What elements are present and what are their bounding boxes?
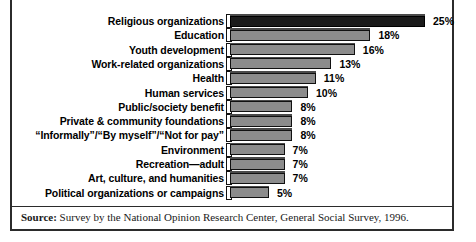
source-note: Source: Survey by the National Opinion R… xyxy=(21,211,441,223)
bar xyxy=(226,100,294,114)
bar xyxy=(226,57,333,71)
bar-value-label: 10% xyxy=(316,86,337,100)
bar xyxy=(226,143,287,157)
bar-value-label: 8% xyxy=(300,114,315,128)
bar-value-label: 13% xyxy=(339,57,360,71)
bar xyxy=(226,171,287,185)
bar-value-label: 8% xyxy=(300,128,315,142)
bar-row: Youth development16% xyxy=(12,43,452,57)
bar-value-label: 8% xyxy=(300,100,315,114)
bar-fill xyxy=(230,159,285,170)
chart-figure: Religious organizations25%Education18%Yo… xyxy=(10,0,454,231)
bar-fill xyxy=(230,44,355,55)
bar xyxy=(226,157,287,171)
bar-row: Health11% xyxy=(12,71,452,85)
bar-fill xyxy=(230,130,292,141)
bar-value-label: 7% xyxy=(293,157,308,171)
bar-fill xyxy=(230,73,316,84)
bar-category-label: Human services xyxy=(12,86,224,100)
bar-value-label: 7% xyxy=(293,171,308,185)
bar xyxy=(226,71,318,85)
bar-row: “Informally”/“By myself”/“Not for pay”8% xyxy=(12,128,452,142)
bar-row: Religious organizations25% xyxy=(12,14,452,28)
bar-fill-highlight xyxy=(230,16,425,27)
source-text: Survey by the National Opinion Research … xyxy=(57,211,409,223)
bar xyxy=(226,128,294,142)
bar xyxy=(226,86,310,100)
bar-category-label: “Informally”/“By myself”/“Not for pay” xyxy=(12,128,224,142)
bar-category-label: Recreation—adult xyxy=(12,157,224,171)
bar-value-label: 11% xyxy=(324,71,344,85)
bar-fill xyxy=(230,30,370,41)
bar-row: Environment7% xyxy=(12,143,452,157)
bar-category-label: Education xyxy=(12,28,224,42)
bar-category-label: Youth development xyxy=(12,43,224,57)
bar-category-label: Political organizations or campaigns xyxy=(12,186,224,200)
source-label: Source: xyxy=(21,211,57,223)
bar-value-label: 16% xyxy=(363,43,384,57)
bar-row: Private & community foundations8% xyxy=(12,114,452,128)
bar-category-label: Public/society benefit xyxy=(12,100,224,114)
bar-row: Recreation—adult7% xyxy=(12,157,452,171)
bar-category-label: Art, culture, and humanities xyxy=(12,171,224,185)
bar-fill xyxy=(230,101,292,112)
bar-category-label: Health xyxy=(12,71,224,85)
bar-fill xyxy=(230,173,285,184)
bar xyxy=(226,43,357,57)
bar-row: Art, culture, and humanities7% xyxy=(12,171,452,185)
bar xyxy=(226,28,372,42)
bar-row: Education18% xyxy=(12,28,452,42)
bar-value-label: 7% xyxy=(293,143,308,157)
bar-row: Work-related organizations13% xyxy=(12,57,452,71)
bar-fill xyxy=(230,87,308,98)
bar-fill xyxy=(230,144,285,155)
bar-value-label: 18% xyxy=(378,28,399,42)
source-divider xyxy=(12,206,452,207)
bar-row: Human services10% xyxy=(12,86,452,100)
bar-row: Public/society benefit8% xyxy=(12,100,452,114)
bar-chart: Religious organizations25%Education18%Yo… xyxy=(12,0,452,205)
bar xyxy=(226,14,427,28)
bar xyxy=(226,186,271,200)
bar-value-label: 25% xyxy=(433,14,454,28)
bar-fill xyxy=(230,58,331,69)
bar-fill xyxy=(230,116,292,127)
bar-category-label: Private & community foundations xyxy=(12,114,224,128)
bar xyxy=(226,114,294,128)
bar-value-label: 5% xyxy=(277,186,292,200)
bar-category-label: Work-related organizations xyxy=(12,57,224,71)
bar-fill xyxy=(230,187,269,198)
bar-category-label: Environment xyxy=(12,143,224,157)
bar-category-label: Religious organizations xyxy=(12,14,224,28)
bar-row: Political organizations or campaigns5% xyxy=(12,186,452,200)
